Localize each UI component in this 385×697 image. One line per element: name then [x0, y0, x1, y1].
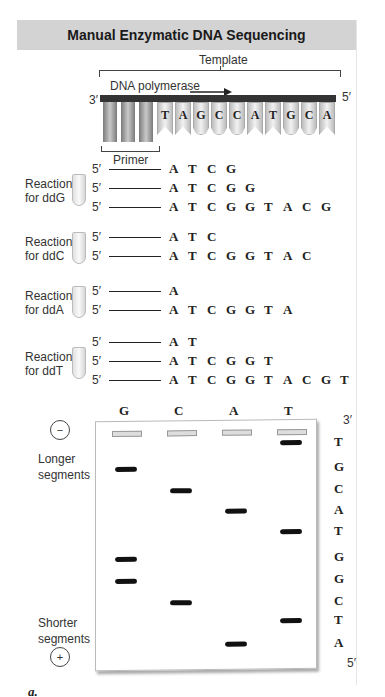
nucleotide: T: [264, 199, 283, 215]
read-nucleotide: G: [334, 571, 344, 587]
nucleotide: T: [188, 199, 207, 215]
reaction-label: Reactionfor ddC: [25, 235, 72, 263]
figure-caption: a.: [28, 684, 38, 697]
five-prime-label: 5′: [92, 284, 106, 298]
reaction-label-line1: Reaction: [25, 177, 72, 191]
reaction-label-line2: for ddG: [25, 191, 72, 205]
strand-sequence: AT: [169, 334, 207, 350]
polymerase-label: DNA polymerase: [110, 79, 200, 93]
reaction-label-line1: Reaction: [25, 289, 72, 303]
primer-nucleotide: [121, 102, 135, 142]
gel-well: [277, 429, 307, 435]
five-prime-label: 5′: [92, 162, 106, 176]
gel-band: [225, 642, 247, 647]
gel-five-prime-label: 5′: [347, 656, 356, 670]
gel-well: [112, 431, 142, 437]
nucleotide: G: [245, 180, 264, 196]
nucleotide: A: [283, 199, 302, 215]
strand-sequence: ATCG: [169, 161, 245, 177]
nucleotide: A: [169, 229, 188, 245]
five-prime-label: 5′: [92, 181, 106, 195]
nucleotide: T: [188, 180, 207, 196]
template-base: C: [301, 102, 317, 135]
positive-electrode-icon: +: [50, 647, 70, 667]
primer-line: [109, 380, 161, 381]
reaction-label: Reactionfor ddG: [25, 177, 72, 205]
primer-nucleotide: [103, 102, 117, 142]
gel-band: [170, 488, 192, 493]
nucleotide: G: [226, 372, 245, 388]
nucleotide: G: [321, 372, 340, 388]
nucleotide: A: [169, 199, 188, 215]
read-nucleotide: G: [334, 549, 344, 565]
nucleotide: G: [226, 161, 245, 177]
five-prime-label: 5′: [92, 230, 106, 244]
strand-row: 5′A: [92, 284, 188, 298]
nucleotide: G: [245, 199, 264, 215]
negative-electrode-icon: −: [50, 420, 70, 440]
gel-well: [167, 430, 197, 436]
gel-band: [115, 557, 137, 562]
nucleotide: C: [207, 302, 226, 318]
strand-sequence: ATCGGTAC: [169, 248, 321, 264]
primer-line: [109, 291, 161, 292]
strand-row: 5′ATCGGT: [92, 354, 283, 368]
primer-line: [109, 169, 161, 170]
template-strand: [100, 95, 336, 102]
template-label: Template: [199, 53, 248, 67]
nucleotide: A: [169, 161, 188, 177]
read-nucleotide: T: [334, 612, 343, 628]
nucleotide: T: [188, 248, 207, 264]
nucleotide: A: [283, 248, 302, 264]
nucleotide: G: [226, 180, 245, 196]
nucleotide: G: [245, 353, 264, 369]
strand-sequence: ATCGGTA: [169, 302, 302, 318]
template-base: G: [193, 102, 209, 135]
nucleotide: C: [207, 229, 226, 245]
test-tube-icon: [72, 286, 86, 318]
nucleotide: G: [321, 199, 340, 215]
strand-sequence: ATCGGTACGT: [169, 372, 359, 388]
shorter-segments-label: Shorter segments: [38, 615, 90, 647]
read-nucleotide: T: [334, 434, 343, 450]
primer-line: [109, 361, 161, 362]
longer-label-line2: segments: [38, 467, 90, 483]
template-bracket: [99, 70, 341, 77]
three-prime-end-label: 3′: [89, 93, 98, 107]
strand-sequence: ATCGGTACG: [169, 199, 340, 215]
strand-row: 5′ATCGG: [92, 181, 264, 195]
nucleotide: C: [207, 199, 226, 215]
nucleotide: G: [226, 353, 245, 369]
primer-line: [109, 256, 161, 257]
nucleotide: A: [283, 302, 302, 318]
primer-line: [109, 207, 161, 208]
primer-line: [109, 237, 161, 238]
nucleotide: T: [188, 161, 207, 177]
nucleotide: C: [302, 248, 321, 264]
nucleotide: T: [264, 302, 283, 318]
negative-symbol: −: [57, 424, 63, 436]
strand-row: 5′ATCG: [92, 162, 245, 176]
nucleotide: C: [302, 372, 321, 388]
nucleotide: G: [226, 199, 245, 215]
panel-header: Manual Enzymatic DNA Sequencing: [17, 20, 356, 50]
strand-sequence: A: [169, 283, 188, 299]
nucleotide: T: [188, 229, 207, 245]
electrophoresis-gel: [95, 419, 317, 671]
primer-line: [109, 188, 161, 189]
nucleotide: T: [188, 302, 207, 318]
nucleotide: T: [188, 353, 207, 369]
nucleotide: T: [340, 372, 359, 388]
reaction-label-line1: Reaction: [25, 350, 72, 364]
test-tube-icon: [72, 232, 86, 264]
read-nucleotide: C: [334, 593, 343, 609]
gel-band: [280, 618, 302, 623]
test-tube-icon: [72, 347, 86, 379]
nucleotide: G: [245, 372, 264, 388]
nucleotide: C: [207, 180, 226, 196]
shorter-label-line1: Shorter: [38, 615, 90, 631]
gel-band: [225, 509, 247, 514]
gel-band: [170, 600, 192, 605]
template-bracket-tick: [220, 66, 221, 71]
five-prime-label: 5′: [92, 354, 106, 368]
